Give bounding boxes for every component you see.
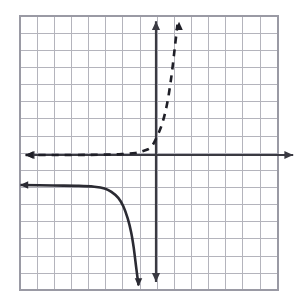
graph-figure [0, 0, 308, 307]
coordinate-plane-graph [0, 0, 308, 307]
